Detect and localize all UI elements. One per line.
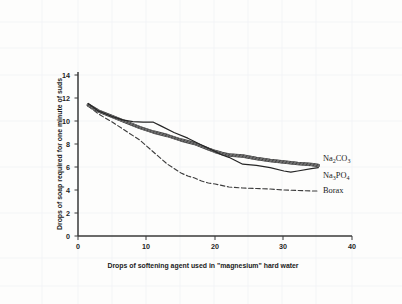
y-tick-label: 14 (62, 71, 70, 80)
y-tick-label: 10 (62, 117, 70, 126)
y-tick-label: 6 (66, 163, 70, 172)
x-tick-labels: 0 10 20 30 40 (76, 242, 356, 251)
x-tick-label: 30 (279, 242, 287, 251)
series-label-na2co3: Na2CO3 (323, 154, 350, 164)
x-tick-label: 40 (348, 242, 356, 251)
y-tick-label: 4 (66, 186, 70, 195)
series-label-borax: Borax (323, 186, 344, 195)
x-tick-label: 0 (76, 242, 80, 251)
y-tick-label: 0 (66, 232, 70, 241)
chart-svg: 14 12 10 8 6 4 2 0 0 10 20 30 40 Drops o… (0, 0, 402, 304)
y-axis-title: Drops of soap required for one minute of… (56, 78, 64, 230)
y-tick-label: 2 (66, 209, 70, 218)
series-labels: Na2CO3 Na3PO4 Borax (323, 154, 350, 195)
series-line-na2co3-shadow (88, 105, 318, 166)
x-tick-label: 10 (142, 242, 150, 251)
y-tick-labels: 14 12 10 8 6 4 2 0 (62, 71, 70, 241)
y-tick-label: 12 (62, 94, 70, 103)
chart-figure: 14 12 10 8 6 4 2 0 0 10 20 30 40 Drops o… (0, 0, 402, 304)
x-axis-title: Drops of softening agent used in "magnes… (107, 262, 298, 270)
series-line-na2co3 (88, 105, 318, 166)
y-tick-label: 8 (66, 140, 70, 149)
axis-lines (78, 72, 352, 236)
x-tick-label: 20 (211, 242, 219, 251)
figure-root: 14 12 10 8 6 4 2 0 0 10 20 30 40 Drops o… (0, 0, 402, 304)
series-label-na3po4: Na3PO4 (323, 171, 349, 181)
